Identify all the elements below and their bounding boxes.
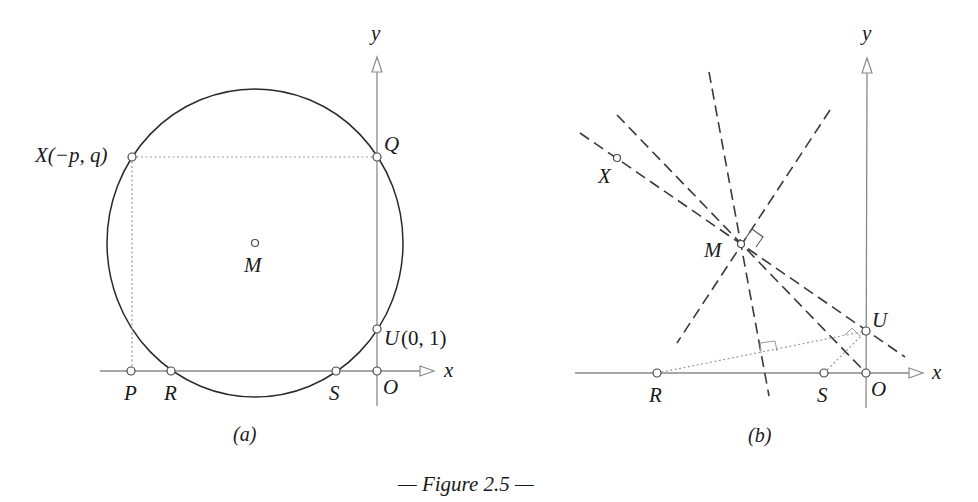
point-m-b [738,241,745,248]
label-p-a: P [123,381,137,405]
point-u-b [862,327,870,335]
panel-b: x y X M U R S O (b) [575,21,942,447]
label-o-b: O [871,377,886,401]
label-m-a: M [243,253,263,277]
y-axis-arrow-icon [372,57,382,72]
label-s-a: S [329,381,340,405]
point-o-a [373,367,381,375]
point-q-a [373,153,381,161]
point-o-b [862,369,870,377]
dotted-line-ru [657,331,866,373]
label-u-b: U [872,308,889,332]
sublabel-a: (a) [233,423,257,446]
y-axis-arrow-icon [862,58,872,73]
figure-caption: — Figure 2.5 — [397,472,534,496]
sublabel-b: (b) [748,424,772,447]
x-axis-label-a: x [443,358,454,382]
x-axis-arrow-icon [420,366,434,376]
point-r-b [653,369,661,377]
figure-2-5: x y X(−p, q) Q M U (0, 1) P R S O (a) [0,0,978,502]
point-x-a [128,153,136,161]
point-s-a [332,367,340,375]
label-s-b: S [817,383,828,407]
label-x-b: X [597,164,612,188]
point-s-b [820,369,828,377]
point-u-a [373,325,381,333]
point-m-a [252,240,259,247]
y-axis-b [866,73,867,408]
panel-a: x y X(−p, q) Q M U (0, 1) P R S O (a) [34,21,454,446]
point-x-b [614,155,621,162]
x-axis-arrow-icon [909,368,923,378]
label-m-b: M [703,238,723,262]
label-u-a: U [384,326,401,350]
point-r-a [167,367,175,375]
label-o-a: O [383,375,398,399]
label-x-a: X(−p, q) [34,143,108,167]
label-u-coords-a: (0, 1) [401,326,447,350]
right-angle-mark-m [745,229,763,247]
label-q-a: Q [384,132,399,156]
y-axis-label-b: y [860,21,872,45]
label-r-a: R [163,381,177,405]
label-r-b: R [648,383,662,407]
x-axis-label-b: x [931,360,942,384]
point-p-a [127,367,135,375]
y-axis-label-a: y [369,21,381,45]
